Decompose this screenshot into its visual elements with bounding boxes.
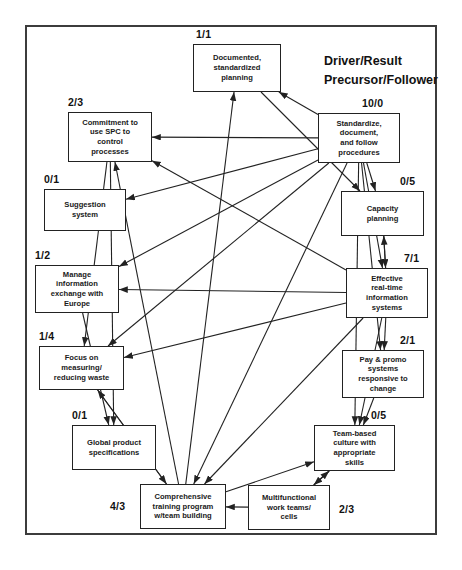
legend-driver-result: Driver/Result Precursor/Follower <box>324 52 438 90</box>
node-capacity[interactable]: Capacity planning <box>341 191 424 236</box>
ratio-label-multifunc: 2/3 <box>339 503 354 515</box>
node-label-commitment: Commitment to use SPC to control process… <box>82 118 138 157</box>
ratio-label-training: 4/3 <box>110 500 125 512</box>
node-label-global_spec: Global product specifications <box>87 438 141 457</box>
node-label-team_culture: Team-based culture with appropriate skil… <box>333 429 377 468</box>
node-effective_it[interactable]: Effective real-time information systems <box>346 268 428 318</box>
node-manage_info[interactable]: Manage information exchange with Europe <box>35 265 119 313</box>
node-multifunc[interactable]: Multifunctional work teams/ cells <box>248 485 330 530</box>
node-training[interactable]: Comprehensive training program w/team bu… <box>140 484 226 529</box>
node-label-capacity: Capacity planning <box>367 204 399 223</box>
node-focus_waste[interactable]: Focus on measuring/ reducing waste <box>39 346 124 390</box>
node-label-manage_info: Manage information exchange with Europe <box>51 270 103 309</box>
node-label-documented: Documented, standardized planning <box>213 53 261 82</box>
node-suggestion[interactable]: Suggestion system <box>44 189 126 231</box>
ratio-label-standardize: 10/0 <box>362 97 383 109</box>
node-pay_promo[interactable]: Pay & promo systems responsive to change <box>342 350 424 398</box>
ratio-label-global_spec: 0/1 <box>72 409 87 421</box>
node-label-suggestion: Suggestion system <box>64 200 105 219</box>
diagram-canvas: Documented, standardized planning1/1Comm… <box>0 0 462 570</box>
ratio-label-focus_waste: 1/4 <box>39 330 54 342</box>
node-standardize[interactable]: Standardize, document, and follow proced… <box>318 113 400 163</box>
node-label-focus_waste: Focus on measuring/ reducing waste <box>54 353 109 382</box>
node-team_culture[interactable]: Team-based culture with appropriate skil… <box>314 425 395 471</box>
node-label-training: Comprehensive training program w/team bu… <box>153 492 214 521</box>
ratio-label-commitment: 2/3 <box>68 96 83 108</box>
ratio-label-manage_info: 1/2 <box>35 249 50 261</box>
ratio-label-capacity: 0/5 <box>400 175 415 187</box>
ratio-label-team_culture: 0/5 <box>371 409 386 421</box>
node-commitment[interactable]: Commitment to use SPC to control process… <box>68 112 152 162</box>
ratio-label-effective_it: 7/1 <box>404 252 419 264</box>
node-label-multifunc: Multifunctional work teams/ cells <box>262 493 316 522</box>
node-label-pay_promo: Pay & promo systems responsive to change <box>358 355 407 394</box>
ratio-label-pay_promo: 2/1 <box>400 334 415 346</box>
ratio-label-suggestion: 0/1 <box>44 173 59 185</box>
node-documented[interactable]: Documented, standardized planning <box>193 44 281 92</box>
node-label-standardize: Standardize, document, and follow proced… <box>336 119 381 158</box>
node-global_spec[interactable]: Global product specifications <box>72 425 156 470</box>
ratio-label-documented: 1/1 <box>196 28 211 40</box>
node-label-effective_it: Effective real-time information systems <box>366 274 408 313</box>
